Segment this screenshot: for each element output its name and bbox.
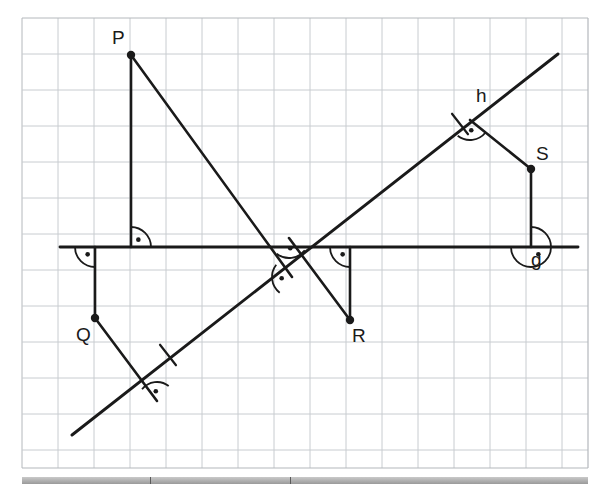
point-R[interactable] xyxy=(346,316,354,324)
right-angle-at-S-foot-on-h xyxy=(458,132,486,140)
right-angle-at-R-foot-on-g xyxy=(330,247,350,267)
segment-P-to-h-perpendicular xyxy=(131,55,292,277)
right-angle-at-S-foot-on-h-dot xyxy=(469,128,474,133)
figure-canvas xyxy=(0,0,613,486)
right-angle-at-P-foot-on-h-dot xyxy=(279,276,284,281)
grid-layer xyxy=(22,18,588,468)
segment-R-to-h-perpendicular xyxy=(289,238,350,320)
label-point-R: R xyxy=(352,326,366,345)
point-P[interactable] xyxy=(127,51,135,59)
point-S[interactable] xyxy=(527,165,535,173)
bottom-toolbar-divider-2 xyxy=(290,477,291,484)
right-angle-at-P-foot-on-g xyxy=(131,227,151,247)
tick-marks-layer xyxy=(160,114,468,365)
geometry-figure: PQRSgh xyxy=(0,0,613,486)
label-point-Q: Q xyxy=(76,325,91,344)
label-line-g: g xyxy=(531,250,542,269)
bottom-toolbar-divider-1 xyxy=(150,477,151,484)
label-point-P: P xyxy=(112,28,125,47)
right-angle-layer xyxy=(75,128,551,393)
right-angle-at-Q-foot-on-h-dot xyxy=(154,389,159,394)
segment-Q-to-h-perpendicular xyxy=(95,318,157,401)
bottom-toolbar-bar xyxy=(22,477,588,484)
right-angle-at-Q-foot-on-g xyxy=(75,247,95,267)
label-point-S: S xyxy=(536,144,549,163)
right-angle-at-Q-foot-on-g-dot xyxy=(85,252,90,257)
point-Q[interactable] xyxy=(91,314,99,322)
segments-layer xyxy=(95,55,531,401)
right-angle-at-P-foot-on-g-dot xyxy=(136,237,141,242)
label-line-h: h xyxy=(476,86,487,105)
right-angle-at-R-foot-on-h-dot xyxy=(288,246,293,251)
right-angle-at-R-foot-on-g-dot xyxy=(340,252,345,257)
